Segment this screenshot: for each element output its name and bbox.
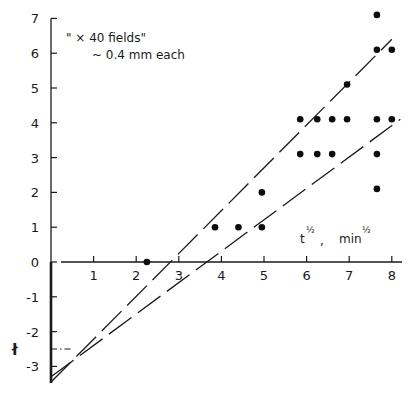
data-point: [374, 12, 381, 19]
y-tick-label: 5: [31, 81, 39, 96]
x-tick-label: 5: [260, 268, 268, 283]
data-point: [344, 81, 351, 88]
y-tick-label: -1: [26, 290, 39, 305]
data-point: [374, 116, 381, 123]
fit-lines: [51, 39, 400, 382]
scatter-chart: 76543210-1-2-312345678 " × 40 fields" ~ …: [0, 0, 420, 398]
x-tick-label: 1: [89, 268, 97, 283]
data-point: [259, 224, 266, 231]
x-label-sep: ,: [320, 234, 324, 248]
x-tick-label: 6: [302, 268, 310, 283]
y-tick-label: 1: [31, 220, 39, 235]
y-tick-label: 3: [31, 151, 39, 166]
x-label-unit: min: [339, 232, 362, 246]
x-tick-label: 7: [345, 268, 353, 283]
data-point: [329, 116, 336, 123]
data-point: [259, 189, 266, 196]
y-tick-label: -2: [26, 325, 39, 340]
data-point: [374, 46, 381, 53]
y-tick-label: 2: [31, 185, 39, 200]
annotation-line-2: ~ 0.4 mm each: [92, 48, 185, 62]
data-point: [297, 151, 304, 158]
y-tick-label: 6: [31, 46, 39, 61]
x-tick-label: 4: [217, 268, 225, 283]
data-point: [314, 151, 321, 158]
x-label-var: t: [300, 232, 305, 246]
x-axis-label: t ½ , min ½: [300, 225, 371, 248]
x-label-var-exp: ½: [306, 225, 315, 235]
axes: 76543210-1-2-312345678: [26, 11, 402, 383]
data-point: [329, 151, 336, 158]
data-point: [144, 259, 151, 266]
x-tick-label: 2: [132, 268, 140, 283]
data-point: [314, 116, 321, 123]
x-label-unit-exp: ½: [362, 225, 371, 235]
y-tick-label: 0: [31, 255, 39, 270]
data-point: [297, 116, 304, 123]
y-tick-label: -3: [26, 359, 39, 374]
y-tick-label: 7: [31, 11, 39, 26]
y-tick-label: 4: [31, 116, 39, 131]
data-point: [212, 224, 219, 231]
data-point: [389, 46, 396, 53]
y-axis-label: ł: [11, 341, 18, 359]
data-point: [344, 116, 351, 123]
steep-fit-line: [51, 39, 392, 382]
data-point: [374, 151, 381, 158]
x-tick-label: 8: [388, 268, 396, 283]
annotation-line-1: " × 40 fields": [66, 31, 146, 45]
axis-labels: " × 40 fields" ~ 0.4 mm each t ½ , min ½…: [11, 31, 371, 359]
shallow-fit-line: [51, 119, 400, 377]
data-point: [374, 186, 381, 193]
data-point: [389, 116, 396, 123]
data-point: [235, 224, 242, 231]
